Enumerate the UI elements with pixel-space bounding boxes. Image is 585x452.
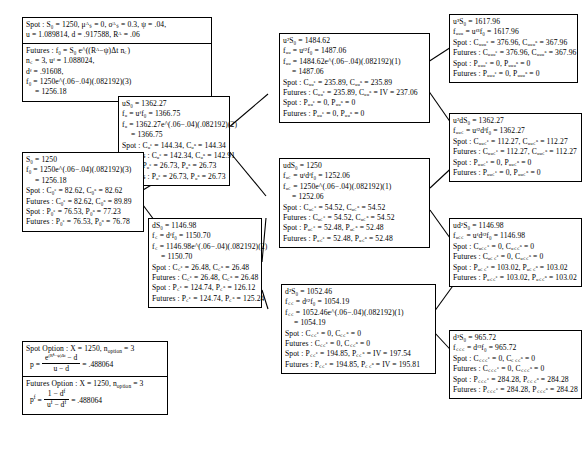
ud2S0-line-3: Spot : Cᵤ꜀꜀ᵉ = 0, Cᵤ꜀꜀ᵃ = 0	[453, 242, 578, 252]
udS0-line-1: udS₀ = 1250	[283, 161, 426, 171]
d3S0-line-5: Spot : P꜀꜀꜀ᵉ = 284.28, P꜀꜀꜀ᵃ = 284.28	[453, 375, 578, 385]
udS0-line-7: Spot : Pᵤ꜀ᵉ = 52.48, Pᵤ꜀ᵃ = 52.48	[283, 223, 426, 233]
futures-p-fraction: 1 − df uf − df	[44, 389, 69, 410]
S0-line-2: f₀ = 1250e^(.06−.04)(.082192)(3)	[26, 165, 140, 175]
S0-line-4: Spot : C₀ᵉ = 82.62, C₀ᵃ = 82.62	[26, 186, 140, 196]
u2dS0-line-2: fᵤᵤ꜀ = uᶠ²dᶠf₀ = 1362.27	[453, 126, 578, 136]
d2S0-line-6: Futures : C꜀꜀ᵉ = 0, C꜀꜀ᵃ = 0	[285, 339, 432, 349]
dS0-line-1: dS₀ = 1146.98	[152, 221, 258, 231]
spot-p-numerator: e(Rᴬ−ψ)Δt − d	[42, 353, 80, 364]
futures-p-equals: =	[38, 395, 42, 406]
divider-2	[23, 376, 167, 377]
futures-option-header-sub: option	[117, 383, 131, 389]
futures-option-p-formula: pf = 1 − df uf − df = .488064	[26, 390, 164, 411]
futures-option-header-val: = 3	[131, 379, 143, 388]
ud2S0-line-2: fᵤ꜀꜀ = uᶠdᶠ²f₀ = 1146.98	[453, 231, 578, 241]
d2S0-line-7: Spot : P꜀꜀ᵉ = 194.85, P꜀꜀ᵃ = IV = 197.54	[285, 349, 432, 359]
u2dS0-line-6: Futures : Pᵤᵤ꜀ᵉ = 0, Pᵤᵤ꜀ᵃ = 0	[453, 168, 578, 178]
futures-p-value: = .488064	[71, 395, 102, 406]
udS0-line-6: Futures : Cᵤ꜀ᵉ = 54.52, Cᵤ꜀ᵃ = 54.52	[283, 213, 426, 223]
dS0-line-3: f꜀ = 1146.98e^(.06−.04)(.082192)(2)	[152, 242, 258, 252]
uS0-line-5: Spot : Cᵤᵉ = 144.34, Cᵤᵃ = 144.34	[122, 141, 226, 151]
parameters-box: Spot : S₀ = 1250, μᴬₛ = 0, σᴬₛ = 0.3, ψ …	[22, 17, 212, 102]
node-S0: S₀ = 1250 f₀ = 1250e^(.06−.04)(.082192)(…	[22, 152, 144, 232]
u2S0-line-2: fᵤᵤ = uᶠ²f₀ = 1487.06	[283, 46, 426, 56]
uS0-line-1: uS₀ = 1362.27	[122, 99, 226, 109]
d3S0-line-4: Futures : C꜀꜀꜀ᵉ = 0, C꜀꜀꜀ᵃ = 0	[453, 364, 578, 374]
divider	[23, 43, 211, 44]
udS0-line-5: Spot : Cᵤ꜀ᵉ = 54.52, Cᵤ꜀ᵃ = 54.52	[283, 203, 426, 213]
futures-p-label-sup: f	[34, 394, 36, 400]
uS0-line-2: fᵤ = uᶠf₀ = 1366.75	[122, 109, 226, 119]
dS0-line-5: Spot : C꜀ᵉ = 26.48, C꜀ᵃ = 26.48	[152, 263, 258, 273]
u3S0-line-2: fᵤᵤᵤ = uᶠ³f₀ = 1617.96	[453, 27, 574, 37]
d2S0-line-8: Futures : P꜀꜀ᵉ = 194.85, P꜀꜀ᵃ = IV = 195…	[285, 360, 432, 370]
futures-params-line-1: Futures : f₀ = S₀ e^((Rᴬ−ψ)Δt n꜀)	[26, 46, 208, 56]
spot-option-p-formula: p = e(Rᴬ−ψ)Δt − d u − d = .488064	[26, 354, 164, 374]
ud2S0-line-6: Futures : Pᵤ꜀꜀ᵉ = 103.02, Pᵤ꜀꜀ᵃ = 103.02	[453, 273, 578, 283]
spot-p-label: p	[30, 359, 34, 370]
node-u2S0: u²S₀ = 1484.62 fᵤᵤ = uᶠ²f₀ = 1487.06 fᵤᵤ…	[279, 33, 430, 123]
node-ud2S0: ud²S₀ = 1146.98 fᵤ꜀꜀ = uᶠdᶠ²f₀ = 1146.98…	[449, 218, 582, 287]
option-parameters-box: Spot Option : X = 1250, noption = 3 p = …	[22, 341, 168, 415]
spot-params-line-2: u = 1.089814, d = .917588, Rᴬ = .06	[26, 30, 208, 40]
dS0-line-6: Futures : C꜀ᵉ = 26.48, C꜀ᵃ = 26.48	[152, 273, 258, 283]
d3S0-line-3: Spot : C꜀꜀꜀ᵉ = 0, C꜀꜀꜀ᵃ = 0	[453, 354, 578, 364]
udS0-line-4: = 1252.06	[283, 192, 426, 202]
diagram-canvas: Spot : S₀ = 1250, μᴬₛ = 0, σᴬₛ = 0.3, ψ …	[0, 0, 585, 452]
udS0-line-8: Futures : Pᵤ꜀ᵉ = 52.48, Pᵤ꜀ᵃ = 52.48	[283, 234, 426, 244]
u2S0-line-7: Spot : Pᵤᵤᵉ = 0, Pᵤᵤᵃ = 0	[283, 98, 426, 108]
d2S0-line-4: = 1054.19	[285, 318, 432, 328]
futures-p-num-sup: f	[63, 388, 65, 394]
u2S0-line-5: Spot : Cᵤᵤᵉ = 235.89, Cᵤᵤᵃ = 235.89	[283, 78, 426, 88]
spot-p-denominator: u − d	[42, 364, 80, 373]
futures-option-header-text: Futures Option : X = 1250, n	[26, 379, 117, 388]
spot-option-header-val: = 3	[122, 344, 134, 353]
S0-line-1: S₀ = 1250	[26, 155, 140, 165]
futures-p-den-d: − d	[52, 400, 64, 409]
ud2S0-line-4: Futures : Cᵤ꜀꜀ᵉ = 0, Cᵤ꜀꜀ᵃ = 0	[453, 252, 578, 262]
d3S0-line-2: f꜀꜀꜀ = dᶠ³f₀ = 965.72	[453, 343, 578, 353]
futures-p-denominator: uf − df	[44, 400, 69, 410]
spot-p-num-d: d	[74, 353, 78, 362]
uS0-line-3: fᵤ = 1362.27e^(.06−.04)(.082192)(2)	[122, 120, 226, 130]
u2S0-line-6: Futures : Cᵤᵤᵉ = 235.89, Cᵤᵤᵃ = IV = 237…	[283, 88, 426, 98]
u2dS0-line-3: Spot : Cᵤᵤ꜀ᵉ = 112.27, Cᵤᵤ꜀ᵃ = 112.27	[453, 137, 578, 147]
u2S0-line-4: = 1487.06	[283, 67, 426, 77]
ud2S0-line-1: ud²S₀ = 1146.98	[453, 221, 578, 231]
futures-p-num-text: 1 − d	[48, 389, 64, 398]
spot-p-num-exponent: (Rᴬ−ψ)Δt	[48, 353, 65, 358]
u2S0-line-8: Futures : Pᵤᵤᵉ = 0, Pᵤᵤᵃ = 0	[283, 109, 426, 119]
dS0-line-7: Spot : P꜀ᵉ = 124.74, P꜀ᵃ = 126.12	[152, 283, 258, 293]
dS0-line-2: f꜀ = dᶠf₀ = 1150.70	[152, 231, 258, 241]
udS0-line-2: fᵤ꜀ = uᶠdᶠf₀ = 1252.06	[283, 171, 426, 181]
u2S0-line-3: fᵤᵤ = 1484.62e^(.06−.04)(.082192)(1)	[283, 57, 426, 67]
dS0-line-8: Futures : P꜀ᵉ = 124.74, P꜀ᵃ = 125.24	[152, 294, 258, 304]
node-udS0: udS₀ = 1250 fᵤ꜀ = uᶠdᶠf₀ = 1252.06 fᵤ꜀ =…	[279, 158, 430, 248]
spot-p-equals: =	[36, 359, 40, 370]
u3S0-line-5: Spot : Pᵤᵤᵤᵉ = 0, Pᵤᵤᵤᵃ = 0	[453, 59, 574, 69]
u3S0-line-3: Spot : Cᵤᵤᵤᵉ = 376.96, Cᵤᵤᵤᵃ = 367.96	[453, 38, 574, 48]
futures-params-line-3: dᶠ = .91608,	[26, 67, 208, 77]
S0-line-3: = 1256.18	[26, 176, 140, 186]
node-u3S0: u³S₀ = 1617.96 fᵤᵤᵤ = uᶠ³f₀ = 1617.96 Sp…	[449, 14, 578, 83]
d3S0-line-6: Futures : P꜀꜀꜀ᵉ = 284.28, P꜀꜀꜀ᵃ = 284.28	[453, 385, 578, 395]
node-d2S0: d²S₀ = 1052.46 f꜀꜀ = dᶠ²f₀ = 1054.19 f꜀꜀…	[281, 284, 436, 374]
node-u2dS0: u²dS₀ = 1362.27 fᵤᵤ꜀ = uᶠ²dᶠf₀ = 1362.27…	[449, 113, 582, 182]
futures-params-line-4: f₀ = 1250e^(.06−.04)(.082192)(3)	[26, 77, 208, 87]
spot-option-header-sub: option	[108, 348, 122, 354]
u2dS0-line-5: Spot : Pᵤᵤ꜀ᵉ = 0, Pᵤᵤ꜀ᵃ = 0	[453, 158, 578, 168]
d2S0-line-1: d²S₀ = 1052.46	[285, 287, 432, 297]
futures-p-den-d-sup: f	[64, 399, 66, 405]
u3S0-line-4: Futures : Cᵤᵤᵤᵉ = 376.96, Cᵤᵤᵤᵃ = 367.96	[453, 48, 574, 58]
d2S0-line-3: f꜀꜀ = 1052.46e^(.06−.04)(.082192)(1)	[285, 308, 432, 318]
futures-p-label: pf	[30, 394, 36, 406]
d2S0-line-2: f꜀꜀ = dᶠ²f₀ = 1054.19	[285, 297, 432, 307]
udS0-line-3: fᵤ꜀ = 1250e^(.06−.04)(.082192)(1)	[283, 182, 426, 192]
S0-line-5: Futures : C₀ᵉ = 82.62, C₀ᵃ = 89.89	[26, 197, 140, 207]
node-dS0: dS₀ = 1146.98 f꜀ = dᶠf₀ = 1150.70 f꜀ = 1…	[148, 218, 262, 308]
ud2S0-line-5: Spot : Pᵤ꜀꜀ᵉ = 103.02, Pᵤ꜀꜀ᵃ = 103.02	[453, 263, 578, 273]
spot-option-header-text: Spot Option : X = 1250, n	[26, 344, 108, 353]
uS0-line-4: = 1366.75	[122, 130, 226, 140]
futures-params-line-2: n꜀ = 3, uᶠ = 1.088024,	[26, 56, 208, 66]
